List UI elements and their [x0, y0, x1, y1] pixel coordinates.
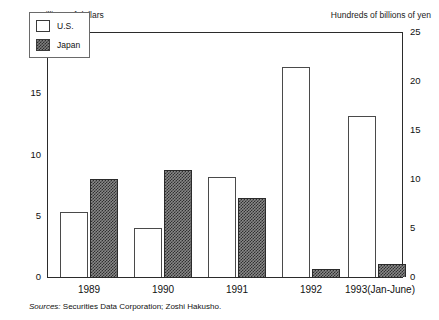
x-axis-label-1990: 1990 — [133, 284, 193, 296]
x-axis-label-1989: 1989 — [59, 284, 119, 296]
bar-japan-1990 — [164, 170, 192, 277]
left-axis-tick-0: 0 — [11, 272, 41, 282]
legend-label-us: U.S. — [57, 21, 74, 31]
x-axis-label-1993: 1993(Jan-June) — [330, 284, 430, 296]
source-note-text: Securities Data Corporation; Zoshi Hakus… — [63, 302, 221, 311]
bar-group-1991 — [208, 33, 268, 277]
right-axis-tick-25: 25 — [410, 27, 439, 37]
bar-group-1993 — [348, 33, 408, 277]
right-axis-tick-5: 5 — [410, 223, 439, 233]
source-note-prefix: Sources: — [29, 302, 61, 311]
legend-entry-japan: Japan — [36, 37, 80, 52]
bar-us-1990 — [134, 228, 162, 277]
right-axis-tick-15: 15 — [410, 125, 439, 135]
bar-group-1989 — [60, 33, 120, 277]
right-axis-tick-20: 20 — [410, 76, 439, 86]
bar-us-1993 — [348, 116, 376, 277]
legend-swatch-us-icon — [36, 20, 50, 32]
bar-layer — [48, 33, 402, 277]
bar-japan-1993 — [378, 264, 406, 277]
bar-us-1991 — [208, 177, 236, 277]
source-note: Sources: Securities Data Corporation; Zo… — [29, 302, 221, 312]
right-axis-caption: Hundreds of billions of yen — [331, 10, 431, 20]
left-axis-tick-10: 10 — [11, 150, 41, 160]
bar-japan-1989 — [90, 179, 118, 277]
plot-area — [47, 32, 403, 278]
legend-swatch-japan-icon — [36, 39, 50, 51]
legend-label-japan: Japan — [57, 40, 80, 50]
bar-us-1989 — [60, 212, 88, 277]
x-axis-label-1991: 1991 — [207, 284, 267, 296]
left-axis-tick-5: 5 — [11, 211, 41, 221]
bar-group-1990 — [134, 33, 194, 277]
bar-group-1992 — [282, 33, 342, 277]
left-axis-tick-15: 15 — [11, 88, 41, 98]
chart-figure: Billions of dollars Hundreds of billions… — [0, 0, 439, 320]
bar-japan-1992 — [312, 269, 340, 277]
bar-us-1992 — [282, 67, 310, 277]
right-axis-tick-0: 0 — [410, 272, 439, 282]
legend: U.S. Japan — [29, 12, 90, 58]
legend-entry-us: U.S. — [36, 18, 80, 33]
right-axis-tick-10: 10 — [410, 174, 439, 184]
bar-japan-1991 — [238, 198, 266, 277]
